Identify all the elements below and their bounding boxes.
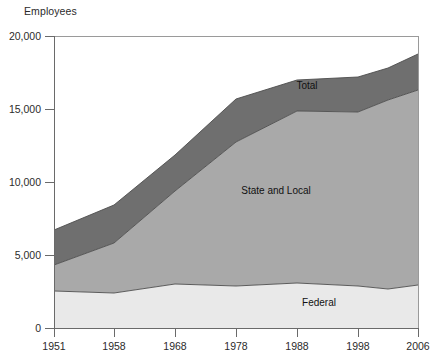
x-axis-ticks: 1951 1958 1968 1978 1988 1998 2006 (42, 328, 430, 352)
y-tick-label-0: 0 (35, 322, 41, 334)
y-axis-ticks: 20,000 15,000 10,000 5,000 0 (9, 30, 54, 334)
employees-stacked-area-chart: Employees 20,000 15, (0, 0, 442, 360)
y-tick-label-10000: 10,000 (9, 176, 41, 188)
x-tick-label-1968: 1968 (163, 340, 187, 352)
x-tick-label-1988: 1988 (285, 340, 309, 352)
series-label-total: Total (296, 80, 317, 91)
x-tick-label-1951: 1951 (42, 340, 66, 352)
x-tick-label-2006: 2006 (406, 340, 430, 352)
x-tick-label-1998: 1998 (346, 340, 370, 352)
y-tick-label-15000: 15,000 (9, 103, 41, 115)
series-label-state-and-local: State and Local (241, 185, 311, 196)
chart-plot-area: 20,000 15,000 10,000 5,000 0 1951 1958 1… (0, 0, 442, 360)
y-tick-label-20000: 20,000 (9, 30, 41, 42)
series-label-federal: Federal (302, 297, 336, 308)
y-tick-label-5000: 5,000 (15, 249, 41, 261)
x-tick-label-1978: 1978 (224, 340, 248, 352)
x-tick-label-1958: 1958 (102, 340, 126, 352)
